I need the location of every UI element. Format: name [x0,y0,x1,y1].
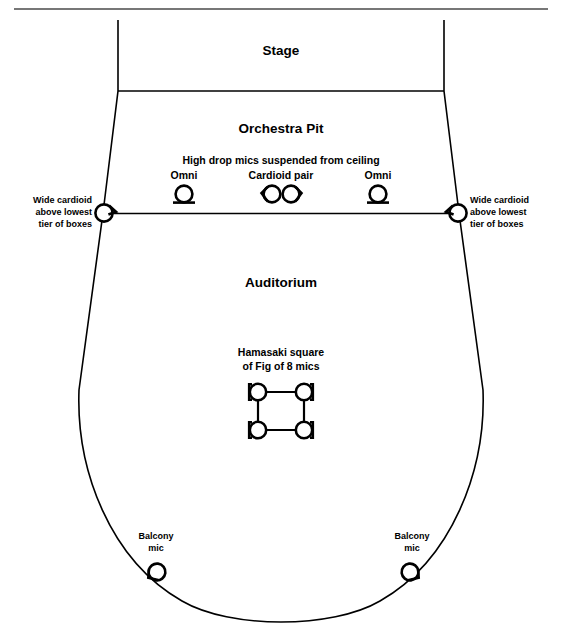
omni-mic-right[interactable] [367,186,389,203]
fig8-mic-top-left [249,384,266,400]
balcony-right-line1: Balcony [394,531,429,541]
wide-cardioid-left-line1: Wide cardioid [33,195,92,205]
omni-mic-left[interactable] [173,186,195,203]
fig8-mic-bottom-right [296,422,313,438]
cardioid-pair-label: Cardioid pair [249,169,314,181]
wide-cardioid-left-line2: above lowest [35,207,92,217]
cardioid-mic-left [262,186,281,203]
balcony-left-line1: Balcony [138,531,173,541]
omni-mic-icon [176,186,193,203]
figure-8-mic-icon [250,422,266,438]
wide-cardioid-mic-left[interactable] [95,204,116,221]
balcony-right-line2: mic [404,543,420,553]
auditorium-label: Auditorium [245,275,317,290]
figure-8-mic-icon [296,422,312,438]
hall-plan-svg: Stage Orchestra Pit High drop mics suspe… [0,0,562,642]
omni-left-label: Omni [171,169,198,181]
orchestra-pit-label: Orchestra Pit [239,121,324,136]
wide-cardioid-right-line2: above lowest [470,207,527,217]
figure-8-mic-icon [250,384,266,400]
hamasaki-square-line1: Hamasaki square [238,346,325,358]
hamasaki-square-group[interactable] [249,384,313,438]
hamasaki-square-line2: of Fig of 8 mics [242,360,319,372]
balcony-mic-right[interactable] [398,560,423,585]
high-drop-mics-label: High drop mics suspended from ceiling [182,154,379,166]
fig8-mic-top-right [296,384,313,400]
wide-cardioid-left-line3: tier of boxes [38,219,92,229]
wide-cardioid-right-line1: Wide cardioid [470,195,529,205]
concert-hall-diagram: Stage Orchestra Pit High drop mics suspe… [0,0,562,642]
balcony-mic-left[interactable] [144,560,169,585]
wide-cardioid-right-line3: tier of boxes [470,219,524,229]
fig8-mic-bottom-left [249,422,266,438]
wide-cardioid-mic-right[interactable] [446,204,467,221]
omni-right-label: Omni [365,169,392,181]
cardioid-mic-right [283,186,302,203]
balcony-left-line2: mic [148,543,164,553]
figure-8-mic-icon [296,384,312,400]
cardioid-pair-group[interactable] [262,186,302,203]
omni-mic-icon [370,186,387,203]
stage-label: Stage [263,43,300,58]
